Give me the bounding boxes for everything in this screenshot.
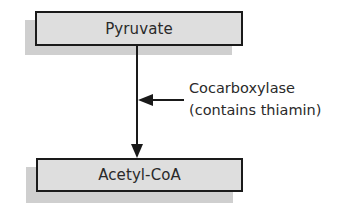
down-arrowhead-icon: [131, 144, 143, 158]
left-arrowhead-icon: [138, 94, 153, 106]
enzyme-arrow: [138, 94, 184, 106]
pathway-diagram: Pyruvate Acetyl-CoA Cocarboxylase (conta…: [0, 0, 363, 213]
enzyme-name-label: Cocarboxylase: [189, 78, 295, 99]
enzyme-note-label: (contains thiamin): [189, 100, 321, 121]
reaction-arrow: [131, 46, 143, 158]
